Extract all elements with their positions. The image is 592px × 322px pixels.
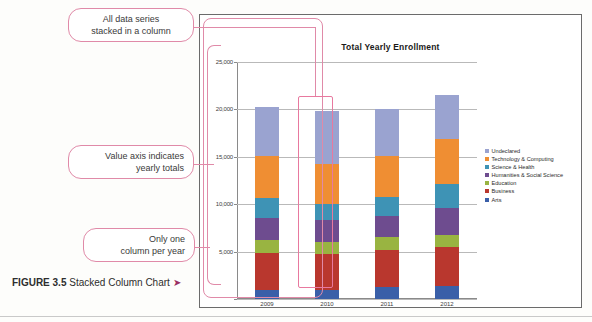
legend-label: Education bbox=[492, 180, 517, 186]
figure-caption: FIGURE 3.5 Stacked Column Chart ➤ bbox=[12, 276, 187, 289]
segment-technology-computing-2011[interactable] bbox=[375, 156, 399, 197]
segment-education-2012[interactable] bbox=[435, 235, 459, 247]
column-group-2011[interactable] bbox=[361, 62, 414, 299]
callout-line-2: stacked in a column bbox=[78, 25, 184, 37]
figure-caption-label: FIGURE 3.5 bbox=[12, 277, 66, 288]
legend-item-undeclared[interactable]: Undeclared bbox=[485, 148, 563, 154]
legend-item-arts[interactable]: Arts bbox=[485, 197, 563, 203]
legend-swatch-icon bbox=[485, 157, 489, 161]
legend-swatch-icon bbox=[485, 165, 489, 169]
segment-technology-computing-2012[interactable] bbox=[435, 139, 459, 185]
segment-science-health-2012[interactable] bbox=[435, 184, 459, 208]
segment-business-2012[interactable] bbox=[435, 247, 459, 286]
segment-humanities-social-science-2012[interactable] bbox=[435, 208, 459, 235]
stacked-column-2011[interactable] bbox=[375, 108, 399, 299]
legend-label: Humanities & Social Science bbox=[492, 172, 564, 178]
legend-label: Business bbox=[492, 188, 515, 194]
column-group-2012[interactable] bbox=[421, 62, 474, 299]
legend-label: Science & Health bbox=[492, 164, 535, 170]
legend-swatch-icon bbox=[485, 149, 489, 153]
segment-undeclared-2011[interactable] bbox=[375, 109, 399, 156]
callout-one-column: Only one column per year bbox=[83, 228, 195, 262]
callout-line-2: column per year bbox=[93, 245, 185, 257]
legend-swatch-icon bbox=[485, 189, 489, 193]
category-label-2009: 2009 bbox=[241, 301, 294, 307]
legend-swatch-icon bbox=[485, 198, 489, 202]
highlight-box-2010-column bbox=[298, 96, 333, 288]
legend-label: Undeclared bbox=[492, 148, 521, 154]
callout-line-2: yearly totals bbox=[78, 162, 184, 174]
stacked-column-2012[interactable] bbox=[435, 95, 459, 299]
gridline-0 bbox=[237, 299, 477, 300]
category-axis-labels: 2009201020112012 bbox=[237, 301, 477, 307]
legend-item-technology-computing[interactable]: Technology & Computing bbox=[485, 156, 563, 162]
callout-value-axis: Value axis indicates yearly totals bbox=[68, 145, 194, 179]
category-label-2010: 2010 bbox=[301, 301, 354, 307]
legend-label: Technology & Computing bbox=[492, 156, 554, 162]
legend-item-business[interactable]: Business bbox=[485, 188, 563, 194]
segment-arts-2011[interactable] bbox=[375, 287, 399, 299]
segment-humanities-social-science-2011[interactable] bbox=[375, 216, 399, 238]
chart-legend: UndeclaredTechnology & ComputingScience … bbox=[485, 148, 563, 203]
legend-swatch-icon bbox=[485, 181, 489, 185]
caption-arrow-icon: ➤ bbox=[173, 277, 181, 288]
legend-item-humanities-social-science[interactable]: Humanities & Social Science bbox=[485, 172, 563, 178]
category-label-2012: 2012 bbox=[421, 301, 474, 307]
segment-business-2011[interactable] bbox=[375, 250, 399, 287]
segment-education-2011[interactable] bbox=[375, 237, 399, 249]
figure-caption-text: Stacked Column Chart bbox=[66, 277, 172, 288]
segment-undeclared-2012[interactable] bbox=[435, 95, 459, 139]
segment-arts-2012[interactable] bbox=[435, 286, 459, 299]
legend-swatch-icon bbox=[485, 173, 489, 177]
callout-series-stacked: All data series stacked in a column bbox=[68, 8, 194, 42]
callout-line-1: Only one bbox=[93, 233, 185, 245]
category-label-2011: 2011 bbox=[361, 301, 414, 307]
legend-item-education[interactable]: Education bbox=[485, 180, 563, 186]
legend-item-science-health[interactable]: Science & Health bbox=[485, 164, 563, 170]
callout-line-1: Value axis indicates bbox=[78, 150, 184, 162]
page-bottom-rule bbox=[0, 316, 592, 317]
callout-line-1: All data series bbox=[78, 13, 184, 25]
legend-label: Arts bbox=[492, 197, 502, 203]
axis-tick-0 bbox=[234, 299, 237, 300]
segment-science-health-2011[interactable] bbox=[375, 197, 399, 216]
